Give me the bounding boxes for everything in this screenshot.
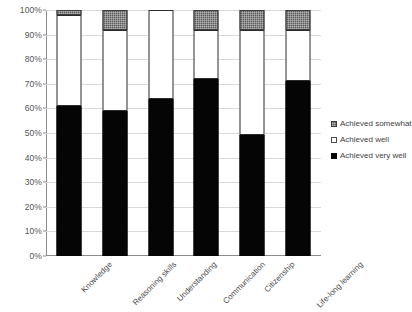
x-axis-labels: KnowledgeReasoning skillsUnderstandingCo… (46, 256, 321, 312)
plot-area: 0%10%20%30%40%50%60%70%80%90%100% (46, 10, 321, 256)
y-axis-tick-label: 90% (25, 30, 42, 40)
x-axis-label: Reasoning skills (131, 260, 178, 307)
x-axis-label-text: Life-long learning (315, 260, 365, 310)
bar-slot (46, 10, 92, 256)
bar-stack[interactable] (240, 10, 265, 256)
bar-segment-achieved-very-well (148, 99, 173, 256)
bar-slot (229, 10, 275, 256)
legend-swatch-icon (331, 137, 337, 143)
bar-segment-achieved-very-well (102, 111, 127, 256)
y-axis-tick-label: 20% (25, 202, 42, 212)
legend-item[interactable]: Achieved well (331, 134, 409, 145)
x-axis-label: Communication (222, 260, 268, 306)
bar-segment-achieved-somewhat (194, 10, 219, 30)
bar-slot (275, 10, 321, 256)
x-axis-label-text: Knowledge (80, 260, 114, 294)
bar-segment-achieved-well (286, 30, 311, 82)
bars-layer (46, 10, 321, 256)
bar-stack[interactable] (286, 10, 311, 256)
y-axis-tick-label: 70% (25, 79, 42, 89)
bar-slot (92, 10, 138, 256)
bar-segment-achieved-somewhat (240, 10, 265, 30)
x-axis-label-text: Reasoning skills (131, 260, 178, 307)
y-axis-tick-label: 0% (30, 251, 43, 261)
y-axis-tick-label: 30% (25, 177, 42, 187)
y-axis-tick-label: 60% (25, 103, 42, 113)
legend-item-label: Achieved somewhat (340, 119, 412, 129)
legend-item-label: Achieved well (340, 135, 389, 145)
y-axis-tick-label: 100% (20, 5, 42, 15)
bar-stack[interactable] (148, 10, 173, 256)
bar-segment-achieved-well (56, 15, 81, 106)
bar-segment-achieved-well (148, 10, 173, 99)
bar-slot (184, 10, 230, 256)
chart-legend: Achieved somewhatAchieved wellAchieved v… (331, 118, 409, 166)
legend-item[interactable]: Achieved somewhat (331, 118, 409, 129)
bar-segment-achieved-somewhat (56, 10, 81, 15)
legend-swatch-icon (331, 121, 337, 127)
x-axis-label: Understanding (175, 260, 218, 303)
y-axis-tick-label: 50% (25, 128, 42, 138)
x-axis-label: Knowledge (80, 260, 114, 294)
bar-segment-achieved-very-well (240, 135, 265, 256)
bar-segment-achieved-very-well (56, 106, 81, 256)
x-axis-label: Life-long learning (315, 260, 365, 310)
bar-slot (138, 10, 184, 256)
bar-segment-achieved-well (102, 30, 127, 111)
legend-item-label: Achieved very well (340, 151, 406, 161)
bar-segment-achieved-very-well (286, 81, 311, 256)
bar-segment-achieved-well (194, 30, 219, 79)
bar-stack[interactable] (194, 10, 219, 256)
x-axis-label-text: Citizenship (263, 260, 297, 294)
legend-item[interactable]: Achieved very well (331, 150, 409, 161)
bar-segment-achieved-somewhat (102, 10, 127, 30)
bar-segment-achieved-very-well (194, 79, 219, 256)
bar-segment-achieved-somewhat (286, 10, 311, 30)
y-axis-tick-label: 10% (25, 226, 42, 236)
x-axis-label: Citizenship (263, 260, 297, 294)
x-axis-label-text: Communication (222, 260, 268, 306)
bar-stack[interactable] (102, 10, 127, 256)
bar-stack[interactable] (56, 10, 81, 256)
bar-segment-achieved-well (240, 30, 265, 136)
legend-swatch-icon (331, 153, 337, 159)
x-axis-label-text: Understanding (175, 260, 218, 303)
y-axis-tick-label: 40% (25, 153, 42, 163)
y-axis-tick-label: 80% (25, 54, 42, 64)
